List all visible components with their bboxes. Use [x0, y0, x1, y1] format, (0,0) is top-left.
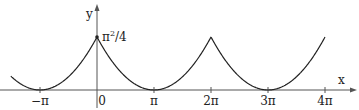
x-tick-label: 3π [260, 94, 276, 108]
x-axis-arrow-icon [350, 88, 357, 93]
peak-marker [95, 35, 99, 39]
y-axis-label: y [85, 7, 93, 21]
x-axis-label: x [338, 73, 345, 87]
x-tick-label: −π [31, 94, 49, 108]
plot-area: −π0π2π3π4π x y π2/4 [0, 0, 359, 110]
y-axis-arrow-icon [95, 4, 100, 11]
x-tick-label: 0 [98, 94, 106, 108]
function-curve [11, 37, 325, 90]
x-tick-label: π [150, 94, 158, 108]
peak-label: π2/4 [102, 29, 127, 44]
x-tick-label: 2π [203, 94, 219, 108]
x-tick-label: 4π [317, 94, 333, 108]
chart-svg: −π0π2π3π4π x y π2/4 [0, 0, 359, 110]
axes [0, 4, 357, 108]
